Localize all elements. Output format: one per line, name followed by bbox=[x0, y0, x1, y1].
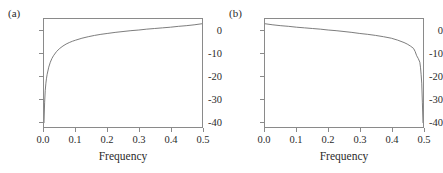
panel-b-xlabel-05: 0.5 bbox=[417, 134, 430, 145]
panel-b-xtick-03 bbox=[360, 128, 361, 132]
panel-a-xtick-04 bbox=[171, 128, 172, 132]
panel-b-xtick-02 bbox=[328, 128, 329, 132]
panel-b-xlabel-01: 0.1 bbox=[289, 134, 302, 145]
figure-two-spectra: (a) 0 -10 -20 -30 -40 0.0 0.1 0.2 0.3 0.… bbox=[0, 0, 443, 173]
panel-a: (a) 0 -10 -20 -30 -40 0.0 0.1 0.2 0.3 0.… bbox=[0, 0, 222, 173]
panel-a-xlabel-05: 0.5 bbox=[196, 134, 209, 145]
panel-a-xlabel-00: 0.0 bbox=[36, 134, 49, 145]
panel-b-plot-area bbox=[264, 18, 424, 128]
panel-b-xlabel-00: 0.0 bbox=[257, 134, 270, 145]
panel-a-xaxis-title: Frequency bbox=[43, 150, 203, 162]
panel-b-xtick-04 bbox=[392, 128, 393, 132]
panel-a-curve-svg bbox=[44, 19, 202, 127]
panel-a-xtick-03 bbox=[139, 128, 140, 132]
panel-a-xtick-00 bbox=[43, 128, 44, 132]
panel-b-curve bbox=[265, 24, 423, 123]
panel-a-xtick-05 bbox=[203, 128, 204, 132]
panel-a-xlabel-02: 0.2 bbox=[100, 134, 113, 145]
panel-a-curve bbox=[44, 24, 202, 123]
panel-a-xlabel-04: 0.4 bbox=[164, 134, 177, 145]
panel-a-xtick-01 bbox=[75, 128, 76, 132]
panel-a-xlabel-03: 0.3 bbox=[132, 134, 145, 145]
panel-b-xlabel-04: 0.4 bbox=[385, 134, 398, 145]
panel-b-curve-svg bbox=[265, 19, 423, 127]
panel-b-xlabel-02: 0.2 bbox=[321, 134, 334, 145]
panel-b-xtick-01 bbox=[296, 128, 297, 132]
panel-a-xtick-02 bbox=[107, 128, 108, 132]
panel-b-xtick-00 bbox=[264, 128, 265, 132]
panel-a-label: (a) bbox=[8, 7, 20, 19]
panel-a-plot-area bbox=[43, 18, 203, 128]
panel-a-xlabel-01: 0.1 bbox=[68, 134, 81, 145]
panel-b-xlabel-03: 0.3 bbox=[353, 134, 366, 145]
panel-b-label: (b) bbox=[229, 7, 242, 19]
panel-b-xtick-05 bbox=[424, 128, 425, 132]
panel-b: (b) 0 -10 -20 -30 -40 0.0 0.1 0.2 0.3 0.… bbox=[221, 0, 443, 173]
panel-b-xaxis-title: Frequency bbox=[264, 150, 424, 162]
